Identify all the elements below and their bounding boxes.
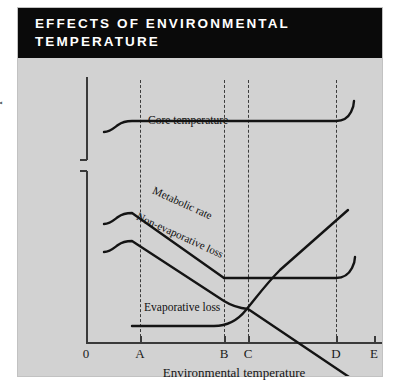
figure-panel: EFFECTS OF ENVIRONMENTAL TEMPERATURE Bod…	[18, 8, 382, 376]
curve-non-evaporative-loss	[104, 241, 358, 376]
curve-core-temperature	[104, 101, 354, 132]
figure-title-line-1: EFFECTS OF ENVIRONMENTAL	[35, 16, 290, 31]
figure-title-line-2: TEMPERATURE	[35, 34, 160, 49]
curve-label-core-temperature: Core temperature	[148, 114, 228, 126]
plot-area: Body temperature Rate of heat production…	[18, 58, 382, 376]
y-axis-label-bottom: Rate of heat production or loss	[0, 0, 3, 168]
curve-label-evaporative-loss: Evaporative loss	[144, 301, 220, 313]
figure-title-bar: EFFECTS OF ENVIRONMENTAL TEMPERATURE	[18, 8, 382, 58]
